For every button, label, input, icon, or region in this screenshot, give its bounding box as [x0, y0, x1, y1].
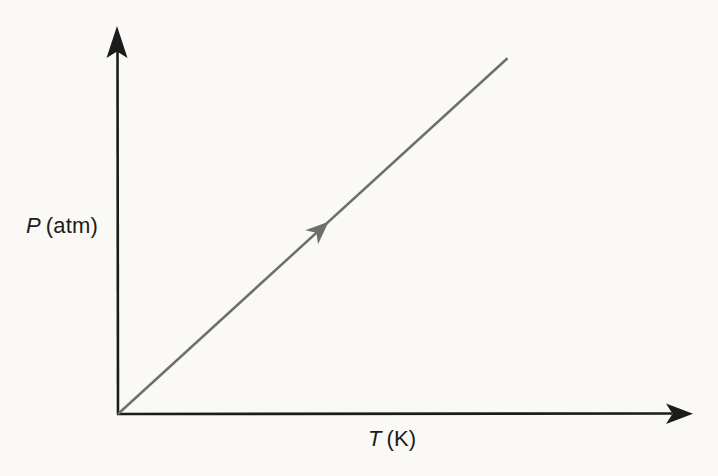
pt-graph-figure: P(atm) T(K): [0, 0, 718, 476]
x-axis: [117, 414, 672, 415]
x-axis-symbol: T: [368, 426, 382, 451]
x-axis-unit: (K): [386, 426, 416, 451]
y-axis: [118, 44, 119, 414]
figure-background: [0, 0, 718, 476]
y-axis-label: P(atm): [26, 213, 98, 239]
y-axis-unit: (atm): [46, 213, 98, 238]
x-axis-label: T(K): [368, 426, 416, 452]
y-axis-symbol: P: [26, 213, 41, 238]
pt-graph-canvas: [0, 0, 718, 476]
